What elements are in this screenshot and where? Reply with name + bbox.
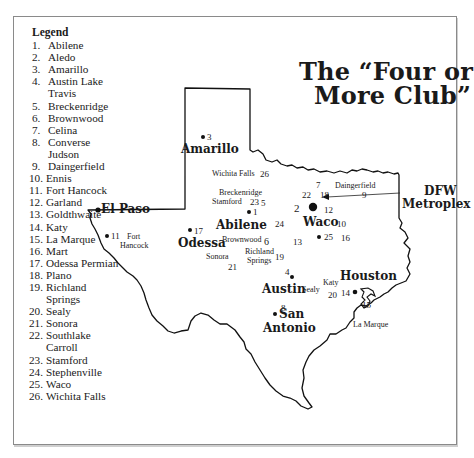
city-label-san-antonio-line-2: Antonio xyxy=(263,322,316,334)
marker-label-16: 16 xyxy=(341,233,350,243)
marker-label-19: 19 xyxy=(275,252,284,262)
marker-label-22: 22 xyxy=(302,190,311,200)
place-label-brownwood: Brownwood xyxy=(222,235,262,244)
marker-label-14: 14 xyxy=(341,288,350,298)
marker-dot-8 xyxy=(273,312,277,316)
marker-label-5: 5 xyxy=(261,198,266,208)
marker-label-7: 7 xyxy=(316,180,321,190)
city-label-dfw-line-2: Metroplex xyxy=(402,198,471,210)
place-label-springs: Springs xyxy=(247,256,271,265)
marker-dot-17 xyxy=(188,228,192,232)
marker-label-18: 18 xyxy=(320,190,329,200)
place-label-wichita-falls: Wichita Falls xyxy=(212,169,255,178)
city-label-odessa: Odessa xyxy=(178,237,226,249)
marker-dot-25 xyxy=(317,235,321,239)
marker-label-23: 23 xyxy=(250,197,259,207)
place-label-daingerfield: Daingerfield xyxy=(335,181,375,190)
marker-label-12: 12 xyxy=(324,205,333,215)
marker-label-1: 1 xyxy=(253,207,258,217)
marker-label-4: 4 xyxy=(285,267,290,277)
marker-label-10: 10 xyxy=(337,219,346,229)
marker-label-9: 9 xyxy=(362,190,367,200)
marker-label-11: 11 xyxy=(111,231,120,241)
marker-dot-el-paso xyxy=(95,207,100,212)
marker-dot-14 xyxy=(353,290,358,295)
marker-dot-3 xyxy=(201,135,205,139)
place-label-la-marque: La Marque xyxy=(353,320,388,329)
marker-label-15: 15 xyxy=(362,300,371,310)
place-label-breckenridge: Breckenridge xyxy=(219,188,262,197)
marker-label-25: 25 xyxy=(324,232,333,242)
city-label-houston: Houston xyxy=(340,270,397,282)
marker-label-21: 21 xyxy=(228,262,237,272)
place-label-sonora: Sonora xyxy=(206,252,229,261)
marker-label-20: 20 xyxy=(328,290,337,300)
city-label-austin: Austin xyxy=(262,283,306,295)
marker-label-6: 6 xyxy=(264,237,269,247)
city-label-dfw-line-1: DFW xyxy=(424,185,456,197)
city-label-el-paso: El Paso xyxy=(101,203,150,215)
place-label-katy: Katy xyxy=(323,278,339,287)
place-label-richland: Richland xyxy=(245,247,274,256)
place-label-fort: Fort xyxy=(127,232,140,241)
marker-label-17: 17 xyxy=(194,226,203,236)
marker-dot-waco-large xyxy=(309,203,317,211)
place-label-hancock: Hancock xyxy=(120,241,148,250)
marker-dot-1 xyxy=(247,210,251,214)
marker-label-2: 2 xyxy=(294,203,300,213)
place-label-sealy: Sealy xyxy=(302,285,320,294)
marker-dot-4 xyxy=(290,275,294,279)
marker-dot-11 xyxy=(105,234,109,238)
marker-label-3: 3 xyxy=(207,132,212,142)
marker-label-26: 26 xyxy=(260,169,269,179)
marker-label-13: 13 xyxy=(293,237,302,247)
marker-label-8: 8 xyxy=(281,303,286,313)
place-label-stamford: Stamford xyxy=(212,197,242,206)
marker-label-24: 24 xyxy=(275,219,284,229)
city-label-amarillo: Amarillo xyxy=(181,143,239,155)
city-label-abilene: Abilene xyxy=(216,219,267,231)
city-label-waco: Waco xyxy=(303,216,339,228)
